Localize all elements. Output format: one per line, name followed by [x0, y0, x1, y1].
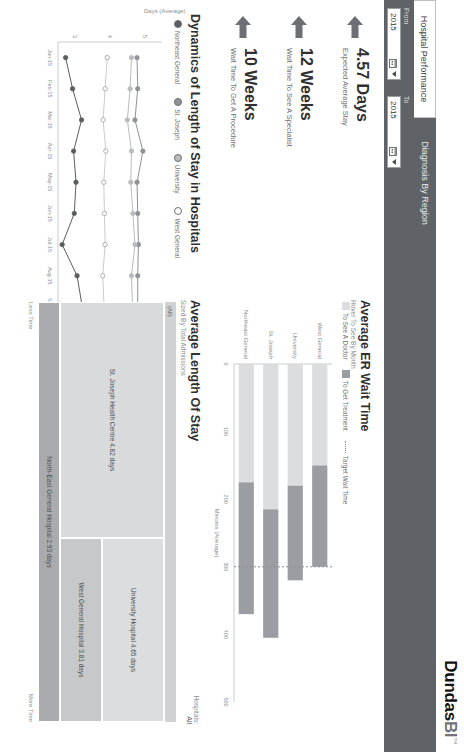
tab-bar: Hospital Performance Diagnosis By Region [414, 0, 436, 752]
to-label: To [403, 96, 410, 103]
treemap-tiles: St. Joseph Health Centre 4.82 daysUniver… [38, 302, 164, 722]
tab-bar-filler [414, 248, 436, 752]
screenshot-frame: DundasBI™ Hospital Performance Diagnosis… [0, 0, 464, 752]
treemap-subtitle: Sized By Total Admissions [180, 300, 187, 730]
svg-text:100: 100 [223, 427, 229, 436]
svg-text:West General: West General [317, 322, 323, 359]
legend-swatch [174, 20, 182, 28]
legend-item-st-joseph[interactable]: St. Joseph [174, 98, 182, 140]
legend-item-northeast-general[interactable]: Northeast General [174, 20, 182, 84]
legend-label: To Get Treatment [343, 381, 350, 431]
legend-item-university[interactable]: University [174, 154, 182, 194]
legend-item-to-get-treatment[interactable]: To Get Treatment [342, 370, 350, 431]
legend-item-target-wait-time[interactable]: Target Wait Time [343, 441, 350, 505]
svg-text:0: 0 [223, 362, 229, 365]
svg-text:5: 5 [142, 35, 148, 39]
svg-text:Jan-15: Jan-15 [47, 49, 53, 66]
legend-item-west-general[interactable]: West General [174, 207, 182, 258]
line-chart-legend: Northeast GeneralSt. JosephUniversityWes… [174, 20, 182, 258]
svg-text:St. Joseph: St. Joseph [268, 331, 274, 359]
svg-text:Jul-15: Jul-15 [47, 237, 53, 252]
legend-label: To See A Doctor [343, 313, 350, 360]
scale-low-label: Less Time [28, 302, 34, 329]
to-date-value: 2015 [390, 97, 399, 145]
treemap-title: Average Length Of Stay [188, 300, 202, 730]
kpi-value: 4.57 Days [353, 48, 371, 122]
tab-hospital-performance[interactable]: Hospital Performance [414, 0, 436, 118]
to-date-input[interactable]: 2015 [387, 96, 401, 168]
kpi-label: Wait Time To Get A Procedure [229, 48, 238, 148]
from-label: From [403, 8, 410, 24]
treemap-tile[interactable]: West General Hospital 3.81 days [60, 538, 102, 722]
arrow-left-icon [286, 14, 312, 40]
kpi-label: Wait Time To See A Specialist [285, 48, 294, 147]
logo-word: Dundas [441, 660, 460, 721]
hospitals-filter[interactable]: Hospitals: All [186, 695, 200, 724]
svg-text:400: 400 [223, 630, 229, 639]
legend-label: Target Wait Time [343, 456, 350, 505]
svg-text:University: University [292, 333, 298, 359]
logo-mark: BI [441, 721, 460, 737]
legend-label: University [175, 165, 182, 194]
dashboard: DundasBI™ Hospital Performance Diagnosis… [0, 0, 464, 752]
legend-swatch [174, 207, 182, 215]
arrow-left-icon [342, 14, 368, 40]
treemap-tile-label: University Hospital 4.65 days [129, 588, 137, 672]
tab-hospital-performance-label: Hospital Performance [419, 16, 429, 103]
svg-text:Northeast General: Northeast General [243, 310, 249, 359]
arrow-left-icon [230, 14, 256, 40]
date-filter-bar: From 2015 To 2015 [384, 0, 414, 752]
legend-swatch [342, 302, 350, 310]
svg-text:200: 200 [223, 495, 229, 504]
svg-text:Apr-15: Apr-15 [47, 143, 53, 160]
er-wait-chart-panel: Average ER Wait Time Hover To See By Mon… [207, 300, 372, 720]
svg-text:May-15: May-15 [47, 173, 53, 191]
legend-swatch [174, 154, 182, 162]
line-chart-ylabel: Days (Average) [144, 8, 186, 14]
treemap-tile[interactable]: St. Joseph Health Centre 4.82 days [60, 302, 164, 538]
treemap-panel: Average Length Of Stay Sized By Total Ad… [12, 300, 202, 730]
legend-swatch [342, 370, 350, 378]
dundas-bi-logo: DundasBI™ [440, 660, 460, 744]
kpi-value: 12 Weeks [297, 48, 315, 121]
legend-label: St. Joseph [175, 109, 182, 140]
calendar-icon[interactable] [388, 145, 400, 157]
svg-text:Jun-15: Jun-15 [47, 205, 53, 222]
legend-item-to-see-a-doctor[interactable]: To See A Doctor [342, 302, 350, 360]
treemap-tile-label: St. Joseph Health Centre 4.82 days [108, 369, 116, 472]
svg-text:4: 4 [107, 35, 113, 39]
logo-trademark: ™ [451, 737, 458, 744]
kpi-wait-time-specialist: 12 Weeks Wait Time To See A Specialist [260, 14, 316, 264]
er-chart-legend: To See A DoctorTo Get TreatmentTarget Wa… [342, 302, 350, 504]
svg-text:Minutes (Average): Minutes (Average) [214, 509, 220, 558]
hospitals-filter-value: All [186, 695, 193, 724]
svg-text:500: 500 [223, 697, 229, 706]
treemap-tile[interactable]: University Hospital 4.65 days [102, 538, 164, 722]
svg-text:300: 300 [223, 562, 229, 571]
chevron-down-icon[interactable] [388, 157, 400, 167]
treemap-area: (All) St. Joseph Health Centre 4.82 days… [38, 302, 176, 722]
scale-high-label: More Time [28, 694, 34, 722]
svg-text:Feb-15: Feb-15 [47, 80, 53, 97]
chevron-down-icon[interactable] [388, 69, 400, 79]
kpi-group: 4.57 Days Expected Average Stay 12 Weeks… [204, 14, 372, 264]
from-date-input[interactable]: 2015 [387, 8, 401, 80]
treemap-tile-label: North-East General Hospital 2.93 days [45, 456, 53, 567]
kpi-wait-time-procedure: 10 Weeks Wait Time To Get A Procedure [204, 14, 260, 264]
er-chart-plot[interactable]: 0100200300400500Minutes (Average)West Ge… [208, 302, 336, 712]
legend-swatch [174, 98, 182, 106]
kpi-expected-average-stay: 4.57 Days Expected Average Stay [316, 14, 372, 264]
svg-text:3: 3 [72, 35, 78, 39]
kpi-value: 10 Weeks [241, 48, 259, 121]
legend-swatch [346, 441, 347, 453]
er-chart-title: Average ER Wait Time [358, 300, 372, 720]
treemap-tile-label: West General Hospital 3.81 days [77, 583, 85, 678]
treemap-color-scale: Less Time More Time [28, 302, 34, 722]
svg-text:Aug-15: Aug-15 [47, 267, 53, 285]
treemap-tile[interactable]: North-East General Hospital 2.93 days [38, 302, 60, 722]
calendar-icon[interactable] [388, 57, 400, 69]
tab-diagnosis-by-region-label: Diagnosis By Region [420, 141, 430, 225]
legend-label: West General [175, 218, 182, 258]
svg-text:Mar-15: Mar-15 [47, 111, 53, 128]
tab-diagnosis-by-region[interactable]: Diagnosis By Region [414, 118, 436, 248]
